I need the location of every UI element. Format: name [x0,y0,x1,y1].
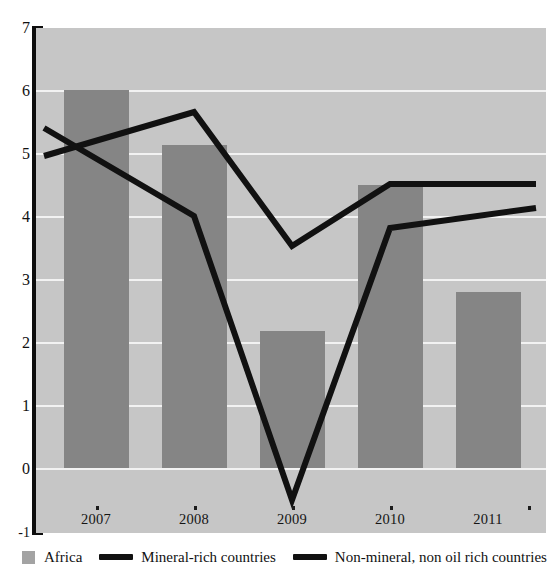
y-axis-label-7: 7 [2,20,30,36]
x-tick-2008 [194,506,197,510]
x-axis-label-2011: 2011 [446,512,530,527]
legend-swatch-line-icon [99,554,133,560]
x-tick-right-end [528,506,531,510]
y-axis-label-1: 1 [2,398,30,414]
y-axis-label-neg1: -1 [2,525,30,541]
line-series-layer [36,28,546,533]
legend-label-mineral-rich-countries: Mineral-rich countries [141,549,276,565]
x-axis-label-2007: 2007 [54,512,138,527]
line-non-mineral-non-oil-rich-countries [44,112,536,246]
chart-legend: Africa Mineral-rich countries Non-minera… [0,545,546,569]
legend-label-non-mineral-non-oil-rich-countries: Non-mineral, non oil rich countries [335,549,547,565]
y-axis-label-0: 0 [2,461,30,477]
x-axis-label-2008: 2008 [152,512,236,527]
x-axis-label-2010: 2010 [348,512,432,527]
legend-item-non-mineral-non-oil-rich-countries[interactable]: Non-mineral, non oil rich countries [293,549,547,565]
y-axis-label-3: 3 [2,272,30,288]
y-axis-label-6: 6 [2,83,30,99]
legend-item-mineral-rich-countries[interactable]: Mineral-rich countries [99,549,276,565]
x-tick-2010 [390,506,393,510]
legend-item-africa[interactable]: Africa [22,549,82,565]
x-axis-label-2009: 2009 [250,512,334,527]
x-tick-2007 [96,506,99,510]
y-axis-label-5: 5 [2,146,30,162]
legend-swatch-line-icon [293,554,327,560]
x-tick-2009 [292,506,295,510]
y-axis-label-2: 2 [2,335,30,351]
legend-swatch-box-icon [22,551,35,564]
y-axis-label-4: 4 [2,209,30,225]
legend-label-africa: Africa [44,549,82,565]
plot-wrap: 2007 2008 2009 2010 2011 [36,28,546,533]
